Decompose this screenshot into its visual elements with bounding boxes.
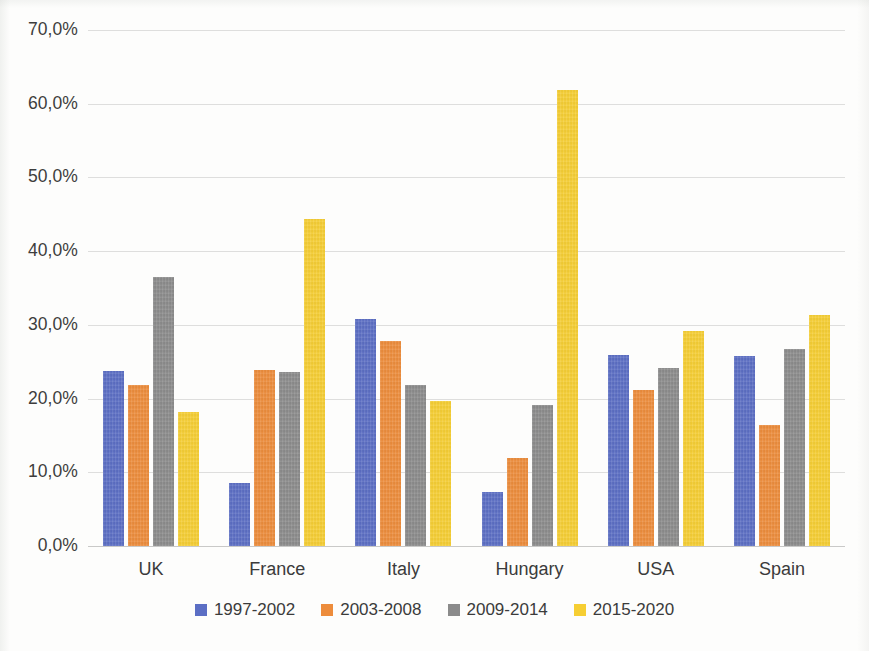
legend-swatch-icon [195,604,207,616]
y-axis-tick-label: 20,0% [6,390,78,408]
x-axis: UKFranceItalyHungaryUSASpain [88,552,845,586]
y-axis-tick-label: 0,0% [6,537,78,555]
legend-swatch-icon [574,604,586,616]
bar[interactable] [279,372,300,546]
bar[interactable] [405,385,426,546]
y-axis-tick-label: 30,0% [6,316,78,334]
legend-item[interactable]: 2009-2014 [448,601,548,618]
legend-item[interactable]: 2003-2008 [321,601,421,618]
bar[interactable] [784,349,805,546]
bar[interactable] [759,425,780,546]
bar[interactable] [380,341,401,546]
bar-group [719,30,845,546]
legend-item[interactable]: 1997-2002 [195,601,295,618]
legend-swatch-icon [448,604,460,616]
bar[interactable] [608,355,629,546]
legend-item[interactable]: 2015-2020 [574,601,674,618]
legend-label: 1997-2002 [214,601,295,618]
y-axis-tick-label: 10,0% [6,463,78,481]
bar-groups [88,30,845,546]
legend-swatch-icon [321,604,333,616]
y-axis: 0,0%10,0%20,0%30,0%40,0%50,0%60,0%70,0% [0,30,78,546]
y-axis-tick-label: 40,0% [6,242,78,260]
legend-label: 2009-2014 [467,601,548,618]
bar[interactable] [304,219,325,546]
bar[interactable] [430,401,451,546]
legend-label: 2015-2020 [593,601,674,618]
x-axis-tick-label: Hungary [467,552,593,586]
bar[interactable] [683,331,704,546]
bar-group [88,30,214,546]
bar[interactable] [482,492,503,546]
bar[interactable] [229,483,250,546]
bar[interactable] [254,370,275,546]
chart-legend: 1997-20022003-20082009-20142015-2020 [0,601,869,618]
bar[interactable] [178,412,199,546]
y-axis-tick-label: 70,0% [6,21,78,39]
bar-chart: 0,0%10,0%20,0%30,0%40,0%50,0%60,0%70,0% … [0,0,869,651]
bar[interactable] [633,390,654,546]
x-axis-tick-label: France [214,552,340,586]
y-axis-tick-label: 50,0% [6,168,78,186]
bar[interactable] [507,458,528,546]
bar[interactable] [658,368,679,546]
x-axis-tick-label: Spain [719,552,845,586]
axis-baseline [88,546,845,547]
bar-group [214,30,340,546]
bar-group [593,30,719,546]
bar[interactable] [128,385,149,546]
x-axis-tick-label: UK [88,552,214,586]
bar[interactable] [557,90,578,546]
legend-label: 2003-2008 [340,601,421,618]
bar[interactable] [532,405,553,546]
x-axis-tick-label: Italy [340,552,466,586]
bar[interactable] [103,371,124,546]
bar[interactable] [809,315,830,546]
y-axis-tick-label: 60,0% [6,95,78,113]
bar[interactable] [153,277,174,546]
x-axis-tick-label: USA [593,552,719,586]
bar[interactable] [355,319,376,546]
bar[interactable] [734,356,755,546]
bar-group [340,30,466,546]
bar-group [467,30,593,546]
